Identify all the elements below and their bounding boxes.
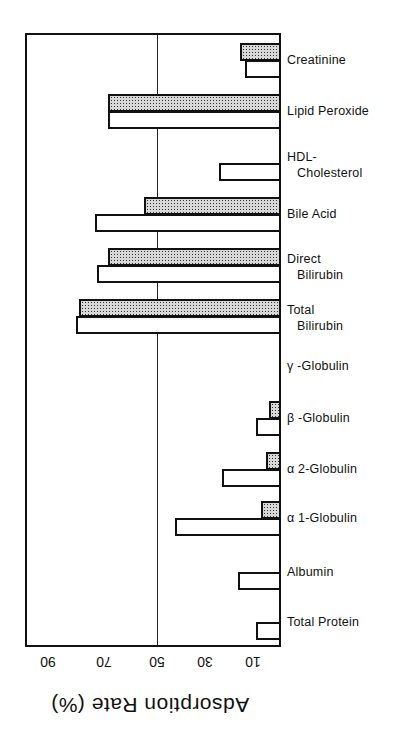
category-label: TotalBilirubin — [287, 302, 343, 334]
bar-shaded — [144, 197, 279, 215]
bar-shaded — [108, 94, 279, 112]
plot-area — [25, 33, 281, 647]
bar-white — [108, 111, 279, 129]
bar-white — [222, 469, 279, 487]
category-label: Creatinine — [287, 52, 346, 68]
category-label: Total Protein — [287, 614, 359, 630]
category-label: Bile Acid — [287, 206, 337, 222]
x-tick-label: 30 — [193, 654, 217, 670]
bar-chart: CreatinineLipid PeroxideHDL-CholesterolB… — [0, 0, 406, 735]
category-label: Lipid Peroxide — [287, 103, 369, 119]
category-label: α 2-Globulin — [287, 461, 357, 477]
bar-white — [95, 214, 279, 232]
x-tick-label: 90 — [36, 654, 60, 670]
x-tick-label: 70 — [92, 654, 116, 670]
bar-white — [76, 316, 279, 334]
bar-white — [219, 163, 279, 181]
x-axis-title: Adsorption Rate (%) — [0, 693, 300, 717]
bar-white — [245, 60, 279, 78]
category-label: HDL-Cholesterol — [287, 149, 362, 181]
bar-shaded — [79, 299, 279, 317]
bar-shaded — [269, 401, 279, 419]
x-tick-label: 50 — [145, 654, 169, 670]
x-tick-label: 10 — [241, 654, 265, 670]
category-label: α 1-Globulin — [287, 510, 357, 526]
bar-white — [97, 265, 279, 283]
category-label: β -Globulin — [287, 410, 350, 426]
bar-shaded — [261, 501, 279, 519]
category-label: Albumin — [287, 564, 334, 580]
bar-white — [238, 572, 279, 590]
bar-shaded — [240, 43, 279, 61]
category-label: γ -Globulin — [287, 358, 349, 374]
bar-white — [256, 622, 279, 640]
bar-white — [175, 518, 279, 536]
bar-shaded — [108, 248, 279, 266]
category-label: DirectBilirubin — [287, 251, 343, 283]
bar-white — [256, 418, 279, 436]
bar-shaded — [266, 452, 279, 470]
